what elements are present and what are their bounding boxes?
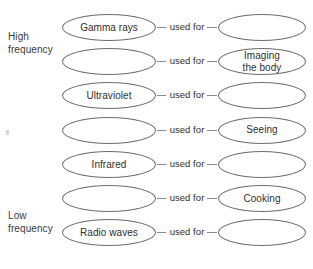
wave-type-ellipse[interactable]: Ultraviolet: [62, 82, 156, 109]
wave-type-ellipse[interactable]: Gamma rays: [62, 14, 156, 41]
use-ellipse[interactable]: Seeing: [218, 117, 306, 144]
connector-line-left: [157, 164, 166, 165]
wave-type-ellipse[interactable]: Radio waves: [62, 219, 156, 246]
wave-type-label: Radio waves: [74, 227, 144, 239]
use-blank-ellipse[interactable]: [218, 151, 306, 178]
connector-line-right: [207, 27, 217, 28]
wave-type-blank-ellipse[interactable]: [62, 185, 156, 212]
connector-label: used for: [166, 226, 208, 238]
use-label-line1: Imaging: [244, 50, 280, 61]
wave-type-blank-ellipse[interactable]: [62, 48, 156, 75]
connector-label: used for: [166, 89, 208, 101]
use-label: Seeing: [240, 124, 283, 136]
connector-line-left: [157, 130, 166, 131]
use-blank-ellipse[interactable]: [218, 219, 306, 246]
connector-label: used for: [166, 124, 208, 136]
connector-line-right: [207, 198, 217, 199]
use-blank-ellipse[interactable]: [218, 82, 306, 109]
connector-line-left: [157, 61, 166, 62]
diagram-row: Radio wavesused for: [0, 213, 313, 253]
use-ellipse[interactable]: Cooking: [218, 185, 306, 212]
connector-line-left: [157, 27, 166, 28]
wave-type-blank-ellipse[interactable]: [62, 117, 156, 144]
diagram-canvas: High frequency Low frequency Gamma raysu…: [0, 0, 313, 269]
use-label-line1: Seeing: [246, 124, 277, 135]
wave-type-label: Infrared: [86, 159, 133, 171]
use-ellipse[interactable]: Imagingthe body: [218, 48, 306, 75]
connector-line-right: [207, 232, 217, 233]
connector-line-left: [157, 198, 166, 199]
use-label-line2: the body: [243, 62, 282, 73]
connector-line-right: [207, 130, 217, 131]
connector-line-right: [207, 61, 217, 62]
wave-type-label: Gamma rays: [74, 22, 144, 34]
connector-line-right: [207, 164, 217, 165]
connector-line-left: [157, 232, 166, 233]
connector-line-right: [207, 95, 217, 96]
connector-line-left: [157, 95, 166, 96]
use-label-line1: Cooking: [243, 193, 280, 204]
connector-label: used for: [166, 158, 208, 170]
use-label: Cooking: [237, 193, 286, 205]
connector-label: used for: [166, 192, 208, 204]
use-label: Imagingthe body: [237, 50, 288, 73]
connector-label: used for: [166, 21, 208, 33]
wave-type-ellipse[interactable]: Infrared: [62, 151, 156, 178]
connector-label: used for: [166, 55, 208, 67]
use-blank-ellipse[interactable]: [218, 14, 306, 41]
wave-type-label: Ultraviolet: [80, 90, 137, 102]
